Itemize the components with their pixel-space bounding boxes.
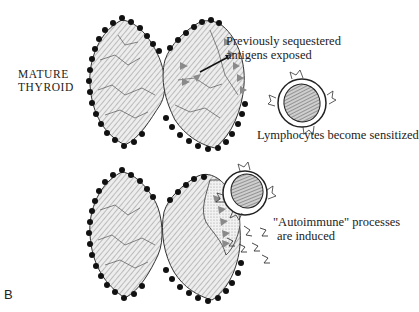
thyroid-gland-icon — [90, 172, 241, 300]
mature-thyroid-label: MATURE THYROID — [18, 68, 74, 94]
lymphocytes-sensitized-note: Lymphocytes become sensitized — [257, 128, 419, 142]
note-line-1: "Autoimmune" processes — [273, 215, 400, 229]
lymphocyte-icon — [268, 70, 336, 135]
note-line-1: Previously sequestered — [226, 34, 341, 48]
note-line-2: antigens exposed — [226, 48, 341, 62]
note-line-2: are induced — [273, 229, 400, 243]
thyroid-gland-icon — [90, 20, 244, 148]
antigens-exposed-note: Previously sequestered antigens exposed — [226, 34, 341, 62]
label-line-2: THYROID — [18, 81, 74, 94]
label-line-1: MATURE — [18, 68, 74, 81]
autoimmune-process-note: "Autoimmune" processes are induced — [273, 215, 400, 243]
panel-label: B — [4, 288, 13, 303]
